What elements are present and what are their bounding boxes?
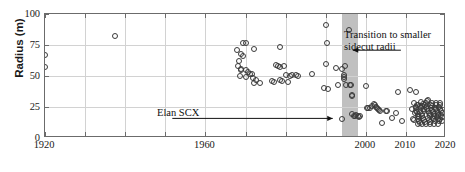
gridline-vertical: [326, 14, 327, 136]
scatter-point: [435, 121, 441, 127]
scatter-point: [295, 73, 301, 79]
scatter-point: [285, 79, 291, 85]
x-tick-mark: [205, 132, 206, 136]
x-tick-mark: [406, 14, 407, 18]
x-tick-mark: [326, 132, 327, 136]
scatter-point: [279, 78, 285, 84]
x-tick-mark: [45, 132, 46, 136]
scatter-point: [384, 108, 390, 114]
scatter-point: [323, 22, 329, 28]
scatter-point: [349, 93, 355, 99]
y-tick-mark: [45, 45, 49, 46]
scatter-point: [243, 74, 249, 80]
scatter-point: [418, 99, 424, 105]
y-tick-label: 0: [10, 132, 40, 143]
scatter-point: [407, 87, 413, 93]
scatter-point: [112, 33, 118, 39]
x-tick-label: 2020: [435, 139, 456, 150]
x-tick-mark: [205, 14, 206, 18]
scatter-point: [342, 63, 348, 69]
transition-annotation-line1: Transition to smaller: [344, 29, 431, 41]
scatter-point: [44, 52, 48, 58]
scatter-point: [243, 40, 249, 46]
x-tick-label: 1960: [194, 139, 215, 150]
scatter-point: [413, 89, 419, 95]
x-tick-mark: [85, 132, 86, 136]
y-tick-mark: [440, 14, 444, 15]
y-tick-mark: [45, 107, 49, 108]
x-tick-mark: [125, 132, 126, 136]
scatter-point: [325, 86, 331, 92]
scatter-point: [395, 89, 401, 95]
scatter-point: [399, 118, 405, 124]
elan-annotation-line1: Elan SCX: [157, 107, 199, 119]
scatter-point: [324, 40, 330, 46]
chart-figure: 19201960200020102020 0255075100 Radius (…: [0, 0, 465, 172]
x-tick-mark: [85, 14, 86, 18]
y-tick-mark: [45, 76, 49, 77]
x-tick-mark: [246, 132, 247, 136]
transition-annotation-text: Transition to smaller sidecut radii: [344, 29, 431, 52]
scatter-point: [281, 63, 287, 69]
scatter-point: [44, 64, 48, 70]
y-axis-label: Radius (m): [13, 0, 25, 98]
x-tick-mark: [246, 14, 247, 18]
x-tick-mark: [286, 14, 287, 18]
scatter-point: [363, 83, 369, 89]
scatter-point: [271, 79, 277, 85]
scatter-point: [277, 44, 283, 50]
x-tick-mark: [286, 132, 287, 136]
scatter-point: [377, 108, 383, 114]
x-tick-mark: [125, 14, 126, 18]
y-tick-label: 25: [10, 101, 40, 112]
scatter-point: [323, 61, 329, 67]
x-tick-mark: [366, 14, 367, 18]
elan-annotation-text: Elan SCX: [157, 107, 199, 119]
gridline-vertical: [205, 14, 206, 136]
scatter-point: [309, 71, 315, 77]
gridline-vertical: [85, 14, 86, 136]
scatter-point: [251, 46, 257, 52]
x-tick-label: 2000: [354, 139, 375, 150]
scatter-point: [251, 80, 257, 86]
x-tick-mark: [165, 132, 166, 136]
scatter-point: [237, 73, 243, 79]
scatter-point: [357, 113, 363, 119]
transition-annotation-line2: sidecut radii: [344, 41, 431, 53]
scatter-point: [257, 80, 263, 86]
scatter-point: [393, 110, 399, 116]
scatter-point: [348, 82, 354, 88]
gridline-vertical: [125, 14, 126, 136]
y-tick-mark: [45, 14, 49, 15]
x-tick-mark: [406, 132, 407, 136]
y-tick-mark: [440, 45, 444, 46]
scatter-point: [335, 82, 341, 88]
x-tick-mark: [165, 14, 166, 18]
x-tick-mark: [366, 132, 367, 136]
scatter-point: [379, 120, 385, 126]
y-tick-mark: [440, 76, 444, 77]
scatter-point: [389, 115, 395, 121]
x-tick-label: 2010: [395, 139, 416, 150]
scatter-point: [333, 65, 339, 71]
x-tick-mark: [326, 14, 327, 18]
